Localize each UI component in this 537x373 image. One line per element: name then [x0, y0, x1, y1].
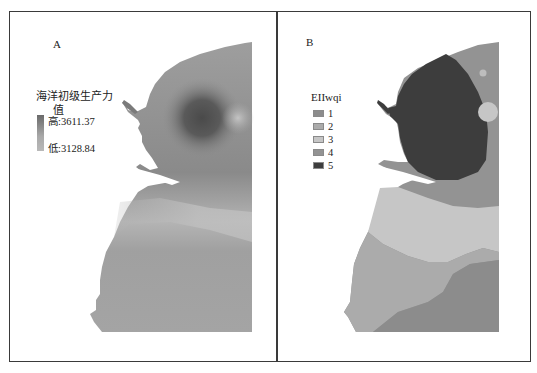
legend-item-1: 1	[313, 108, 333, 118]
panel-b: B EIIwqi 1 2 3 4 5	[278, 12, 530, 361]
legend-swatch-1	[313, 110, 324, 117]
panel-a: A 海洋初级生产力 值 高:3611.37 低:3128.84	[10, 12, 276, 361]
legend-label-4: 4	[328, 147, 333, 158]
legend-high-label: 高:3611.37	[48, 113, 95, 128]
legend-label-2: 2	[328, 121, 333, 132]
legend-title-eiiwqi: EIIwqi	[311, 91, 342, 103]
legend-item-2: 2	[313, 121, 333, 131]
legend-label-3: 3	[328, 134, 333, 145]
map-primary-productivity	[10, 12, 276, 361]
legend-swatch-4	[313, 149, 324, 156]
legend-label-5: 5	[328, 160, 333, 171]
legend-item-5: 5	[313, 160, 333, 170]
legend-item-3: 3	[313, 134, 333, 144]
legend-swatch-5	[313, 162, 324, 169]
legend-item-4: 4	[313, 147, 333, 157]
legend-swatch-3	[313, 136, 324, 143]
panel-label-b: B	[306, 36, 313, 48]
panel-label-a: A	[53, 38, 61, 50]
map-eiiwqi-classes	[278, 12, 530, 361]
legend-low-label: 低:3128.84	[48, 140, 95, 155]
legend-label-1: 1	[328, 108, 333, 119]
legend-title-productivity: 海洋初级生产力	[36, 87, 113, 103]
legend-color-ramp	[37, 115, 44, 151]
legend-swatch-2	[313, 123, 324, 130]
